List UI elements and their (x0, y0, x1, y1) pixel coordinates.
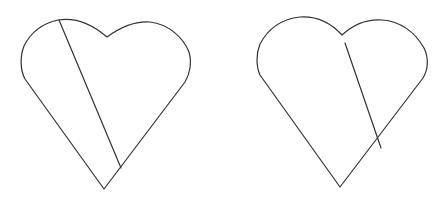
right-heart-group (257, 17, 427, 187)
left-heart-outline (21, 19, 190, 189)
left-heart-group (21, 19, 190, 189)
hearts-diagram (0, 0, 447, 201)
left-heart-chord (59, 20, 121, 168)
right-heart-outline (257, 17, 427, 187)
right-heart-segment (345, 43, 381, 148)
